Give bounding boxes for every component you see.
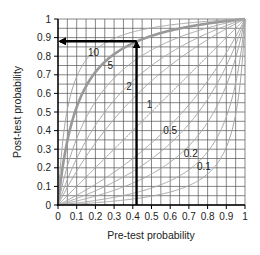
y-tick-label: 0.2 xyxy=(37,162,51,173)
y-tick-label: 0.6 xyxy=(37,88,51,99)
curve-label-lr-1: 1 xyxy=(147,99,153,110)
x-tick-label: 0.3 xyxy=(107,211,121,222)
x-tick-label: 0.8 xyxy=(201,211,215,222)
x-tick-label: 0.2 xyxy=(88,211,102,222)
y-tick-label: 0.4 xyxy=(37,125,51,136)
x-tick-label: 0.6 xyxy=(163,211,177,222)
x-tick-label: 0.7 xyxy=(182,211,196,222)
y-axis-title: Post-test probability xyxy=(11,65,23,158)
y-tick-label: 0.7 xyxy=(37,69,51,80)
y-tick-label: 0.8 xyxy=(37,51,51,62)
curve-label-lr-0_5: 0.5 xyxy=(163,125,177,136)
x-tick-label: 0.1 xyxy=(70,211,84,222)
x-tick-label: 1 xyxy=(242,211,248,222)
y-tick-label: 0.1 xyxy=(37,181,51,192)
x-axis-title: Pre-test probability xyxy=(107,229,195,241)
x-tick-labels: 00.10.20.30.40.50.60.70.80.91 xyxy=(55,211,248,222)
x-tick-label: 0 xyxy=(55,211,61,222)
x-tick-label: 0.5 xyxy=(145,211,159,222)
y-tick-label: 0 xyxy=(45,200,51,211)
y-tick-label: 0.9 xyxy=(37,32,51,43)
y-tick-label: 1 xyxy=(45,14,51,25)
y-tick-labels: 00.10.20.30.40.50.60.70.80.91 xyxy=(37,14,51,211)
likelihood-ratio-chart: 00.10.20.30.40.50.60.70.80.91 00.10.20.3… xyxy=(0,0,260,255)
curve-label-lr-0_1: 0.1 xyxy=(197,161,211,172)
x-tick-label: 0.4 xyxy=(126,211,140,222)
y-tick-label: 0.3 xyxy=(37,144,51,155)
curve-label-lr-2: 2 xyxy=(126,81,132,92)
x-tick-label: 0.9 xyxy=(219,211,233,222)
curve-label-lr-0_2: 0.2 xyxy=(184,148,198,159)
y-tick-label: 0.5 xyxy=(37,107,51,118)
curve-label-lr-5: 5 xyxy=(108,60,114,71)
curve-label-lr-10: 10 xyxy=(88,47,100,58)
